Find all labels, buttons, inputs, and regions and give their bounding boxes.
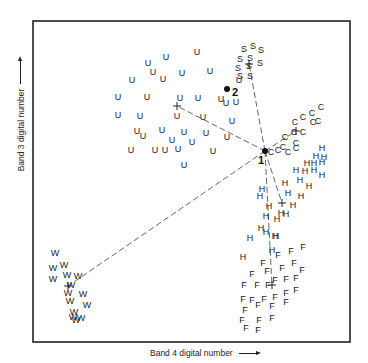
x-axis-arrow-icon <box>239 353 257 354</box>
data-point: F <box>269 301 275 311</box>
data-point: H <box>290 200 297 210</box>
data-point: S <box>257 58 263 68</box>
data-point: F <box>264 266 270 276</box>
data-point: U <box>195 93 202 103</box>
data-point: C <box>292 117 299 127</box>
data-point: H <box>274 214 281 224</box>
data-point: U <box>174 111 181 121</box>
data-point: F <box>255 325 261 335</box>
pixel-label-1: 1 <box>258 154 264 166</box>
data-point: C <box>275 145 282 155</box>
data-point: W <box>49 263 58 273</box>
data-point: H <box>285 188 292 198</box>
data-point: U <box>115 110 122 120</box>
data-point: W <box>79 289 88 299</box>
data-point: U <box>203 128 210 138</box>
data-point: F <box>240 294 246 304</box>
data-point: F <box>300 242 306 252</box>
data-point: U <box>229 116 236 126</box>
data-point: H <box>319 170 326 180</box>
data-point: C <box>300 112 307 122</box>
data-point: F <box>272 275 278 285</box>
data-point: C <box>285 147 292 157</box>
data-point: U <box>194 47 201 57</box>
data-point: S <box>250 41 256 51</box>
x-axis-label-text: Band 4 digital number <box>150 348 233 358</box>
data-point: U <box>189 137 196 147</box>
data-point: H <box>319 157 326 167</box>
data-point: U <box>115 92 122 102</box>
data-point: U <box>175 144 182 154</box>
y-axis-label-text: Band 3 digital number <box>16 88 26 171</box>
pixel-label-2: 2 <box>232 86 238 98</box>
data-point: U <box>181 160 188 170</box>
data-point: U <box>152 145 159 155</box>
annotations: 12 <box>224 86 268 166</box>
data-point: U <box>233 97 240 107</box>
data-point: F <box>241 280 247 290</box>
data-point: U <box>181 127 188 137</box>
data-point: F <box>283 274 289 284</box>
data-point: F <box>261 294 267 304</box>
data-point: U <box>177 93 184 103</box>
data-point: W <box>66 296 75 306</box>
data-point: C <box>315 116 322 126</box>
data-point: H <box>283 209 290 219</box>
data-point: C <box>268 147 275 157</box>
data-point: W <box>63 270 72 280</box>
data-point: U <box>129 75 136 85</box>
data-point: H <box>263 211 270 221</box>
distance-line-h <box>265 151 282 203</box>
data-point: H <box>282 178 289 188</box>
x-axis-label: Band 4 digital number <box>150 348 257 358</box>
data-point: C <box>291 127 298 137</box>
data-point: H <box>298 191 305 201</box>
data-point: C <box>318 102 325 112</box>
data-point: F <box>243 323 249 333</box>
data-point: H <box>247 233 254 243</box>
data-point: H <box>240 252 247 262</box>
data-points: UUUUUUUUUUUUUUUUUUUUUUUUUUUUUUUUUUUSSSSS… <box>49 41 328 335</box>
data-point: U <box>200 112 207 122</box>
data-point: U <box>159 125 166 135</box>
series-w: WWWWWWWWWWWWWWW <box>49 248 92 325</box>
data-point: U <box>150 67 157 77</box>
data-point: F <box>283 297 289 307</box>
data-point: C <box>293 143 300 153</box>
data-point: W <box>83 300 92 310</box>
data-point: U <box>223 98 230 108</box>
centroid-cross-icon <box>173 102 181 110</box>
data-point: S <box>258 45 264 55</box>
data-point: U <box>179 68 186 78</box>
data-point: S <box>237 71 243 81</box>
series-u: UUUUUUUUUUUUUUUUUUUUUUUUUUUUUUUUUUU <box>115 47 243 170</box>
data-point: F <box>293 285 299 295</box>
data-point: H <box>306 181 313 191</box>
data-point: C <box>282 132 289 142</box>
series-f: FFFFFFFFFFFFFFFFFFFFFFFFFFFFFF <box>239 242 306 335</box>
data-point: U <box>224 132 231 142</box>
data-point: W <box>49 274 58 284</box>
data-point: H <box>272 231 279 241</box>
data-point: W <box>77 313 86 323</box>
data-point: F <box>275 250 281 260</box>
y-axis-label: Band 3 digital number <box>14 62 28 197</box>
data-point: F <box>288 246 294 256</box>
data-point: U <box>210 146 217 156</box>
data-point: U <box>140 131 147 141</box>
data-point: F <box>242 305 248 315</box>
centroid-cross-icon <box>278 199 286 207</box>
data-point: F <box>291 258 297 268</box>
data-point: F <box>254 280 260 290</box>
data-point: W <box>69 312 78 322</box>
data-point: F <box>255 300 261 310</box>
unknown-pixel-dot-icon <box>224 86 230 92</box>
data-point: U <box>128 145 135 155</box>
data-point: F <box>299 265 305 275</box>
data-point: W <box>60 260 69 270</box>
series-h: HHHHHHHHHHHHHHHHHHHHHHHHHHHHHH <box>240 143 328 262</box>
data-point: U <box>160 74 167 84</box>
data-point: H <box>297 175 304 185</box>
data-point: S <box>247 71 253 81</box>
data-point: H <box>266 201 273 211</box>
